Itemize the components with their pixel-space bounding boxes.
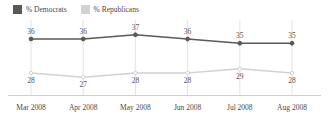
x-axis-tick-0: Mar 2008 [8,103,54,113]
value-label-republicans-4: 29 [228,73,252,81]
data-point[interactable] [238,67,241,70]
value-label-republicans-3: 28 [176,77,200,85]
data-point[interactable] [186,37,190,41]
value-label-democrats-1: 36 [71,28,95,36]
x-axis-tick-2: May 2008 [112,103,158,113]
data-point[interactable] [82,76,85,79]
value-label-democrats-0: 36 [19,28,43,36]
legend-item-democrats[interactable]: % Democrats [13,5,67,14]
value-label-republicans-2: 28 [123,77,147,85]
value-label-democrats-3: 36 [176,28,200,36]
legend-swatch-icon-republicans [81,5,90,14]
value-label-democrats-2: 37 [123,24,147,32]
data-point[interactable] [238,41,242,45]
plot-area: 363637363535282728282928 [0,18,329,100]
line-chart: % Democrats % Republicans 36363736353528… [0,0,329,121]
x-axis-tick-3: Jun 2008 [165,103,211,113]
value-label-republicans-0: 28 [19,77,43,85]
legend-label-democrats: % Democrats [26,5,67,14]
data-point[interactable] [134,71,137,74]
value-label-republicans-1: 27 [71,81,95,89]
data-point[interactable] [29,37,33,41]
x-axis-tick-1: Apr 2008 [60,103,106,113]
x-axis-labels: Mar 2008Apr 2008May 2008Jun 2008Jul 2008… [0,103,329,117]
x-axis-tick-5: Aug 2008 [269,103,315,113]
value-label-democrats-4: 35 [228,32,252,40]
series-line-republicans [31,69,292,78]
x-axis-tick-4: Jul 2008 [217,103,263,113]
plot-svg [0,18,329,100]
data-point[interactable] [290,41,294,45]
data-point[interactable] [29,71,32,74]
legend-label-republicans: % Republicans [94,5,139,14]
series-line-democrats [31,35,292,44]
chart-legend: % Democrats % Republicans [13,2,139,16]
legend-item-republicans[interactable]: % Republicans [81,5,139,14]
value-label-democrats-5: 35 [280,32,304,40]
data-point[interactable] [290,71,293,74]
value-label-republicans-5: 28 [280,77,304,85]
data-point[interactable] [186,71,189,74]
data-point[interactable] [81,37,85,41]
legend-swatch-icon-democrats [13,5,22,14]
data-point[interactable] [134,33,138,37]
